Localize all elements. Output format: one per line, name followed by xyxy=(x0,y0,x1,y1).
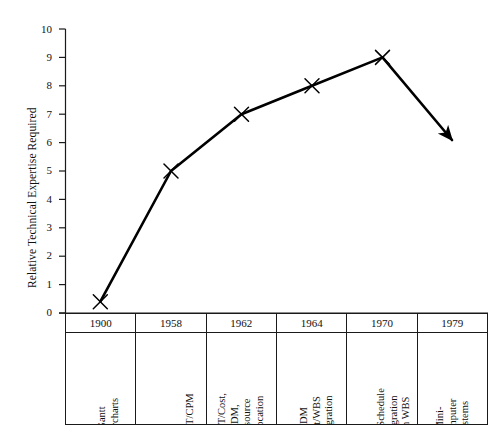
description-line: ADM, xyxy=(229,393,242,424)
description-text-1964: PDM Cost/WBS Integration xyxy=(297,395,335,424)
timeline-table: 1900 Gantt Barcharts 1958 PERT/CPM 1962 … xyxy=(65,313,488,425)
timeline-column-1900: 1900 Gantt Barcharts xyxy=(66,314,136,424)
trend-arrow xyxy=(383,57,453,140)
description-line: PDM xyxy=(297,395,310,424)
description-text-1962: PERT/Cost, ADM, Resource Allocation xyxy=(216,393,266,424)
description-line: Cost/Schedule xyxy=(375,388,388,424)
description-line: Systems xyxy=(460,398,473,424)
year-label-1964: 1964 xyxy=(277,314,346,333)
description-cell-1958: PERT/CPM xyxy=(136,333,205,424)
timeline-column-1958: 1958 PERT/CPM xyxy=(136,314,206,424)
data-point-markers xyxy=(93,50,389,308)
timeline-column-1979: 1979 Mini- computer Systems xyxy=(418,314,487,424)
description-line: Allocation xyxy=(254,393,267,424)
description-cell-1964: PDM Cost/WBS Integration xyxy=(277,333,346,424)
description-line: PERT/Cost, xyxy=(216,393,229,424)
y-axis-ticks xyxy=(59,29,66,313)
data-point-marker-1958 xyxy=(164,164,178,178)
description-text-1970: Cost/Schedule Integration with WBS xyxy=(375,388,413,424)
description-line: with WBS xyxy=(400,388,413,424)
data-point-marker-1964 xyxy=(305,79,319,93)
timeline-column-1970: 1970 Cost/Schedule Integration with WBS xyxy=(347,314,417,424)
description-line: Integration xyxy=(322,395,335,424)
description-line: Resource xyxy=(241,393,254,424)
year-label-1962: 1962 xyxy=(207,314,276,333)
year-label-1979: 1979 xyxy=(418,314,487,333)
description-text-1900: Gantt Barcharts xyxy=(96,398,121,424)
description-line: PERT/CPM xyxy=(184,393,197,424)
timeline-column-1964: 1964 PDM Cost/WBS Integration xyxy=(277,314,347,424)
figure-root: Relative Technical Expertise Required 10… xyxy=(0,0,504,448)
data-point-marker-1962 xyxy=(235,107,249,121)
timeline-column-1962: 1962 PERT/Cost, ADM, Resource Allocation xyxy=(207,314,277,424)
data-line-series xyxy=(100,57,382,301)
description-cell-1970: Cost/Schedule Integration with WBS xyxy=(347,333,416,424)
description-text-1979: Mini- computer Systems xyxy=(435,398,473,424)
description-line: Gantt xyxy=(96,398,109,424)
description-text-1958: PERT/CPM xyxy=(184,393,197,424)
year-label-1958: 1958 xyxy=(136,314,205,333)
description-line: Cost/WBS xyxy=(310,395,323,424)
description-line: computer xyxy=(447,398,460,424)
description-line: Mini- xyxy=(435,398,448,424)
description-cell-1900: Gantt Barcharts xyxy=(66,333,135,424)
data-point-marker-1900 xyxy=(93,295,107,309)
description-line: Integration xyxy=(387,388,400,424)
data-point-marker-1970 xyxy=(376,50,390,64)
description-line: Barcharts xyxy=(108,398,121,424)
description-cell-1979: Mini- computer Systems xyxy=(418,333,487,424)
year-label-1970: 1970 xyxy=(347,314,416,333)
year-label-1900: 1900 xyxy=(66,314,135,333)
description-cell-1962: PERT/Cost, ADM, Resource Allocation xyxy=(207,333,276,424)
